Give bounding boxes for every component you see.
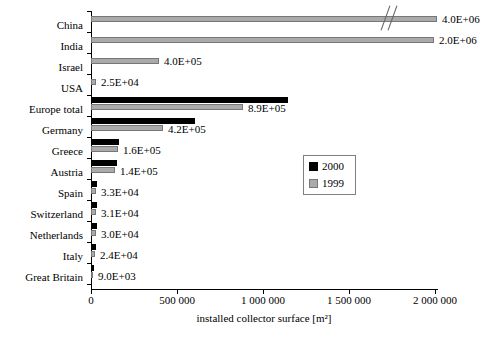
- y-label-netherlands: Netherlands: [0, 230, 83, 241]
- y-label-greece: Greece: [0, 146, 83, 157]
- bar-1999-austria: [91, 167, 115, 173]
- bar-1999-netherlands: [91, 230, 96, 236]
- y-label-usa: USA: [0, 83, 83, 94]
- bar-value-spain: 3.3E+04: [101, 187, 139, 198]
- y-label-great-britain: Great Britain: [0, 272, 83, 283]
- x-tick-label-2: 1 000 000: [241, 294, 285, 306]
- x-axis-title: installed collector surface [m²]: [0, 312, 498, 324]
- bar-1999-switzerland: [91, 209, 96, 215]
- legend-swatch-1999-icon: [309, 179, 318, 188]
- bar-2000-great-britain: [91, 265, 94, 271]
- y-label-china: China: [0, 20, 83, 31]
- legend-label-2000: 2000: [322, 161, 344, 172]
- bar-value-india: 2.0E+06: [439, 35, 477, 46]
- x-tick-label-3: 1 500 000: [327, 294, 371, 306]
- legend-swatch-2000-icon: [309, 162, 318, 171]
- y-label-germany: Germany: [0, 125, 83, 136]
- bar-1999-europe-total: [91, 104, 243, 110]
- bar-value-italy: 2.4E+04: [100, 250, 138, 261]
- bar-value-austria: 1.4E+05: [120, 166, 158, 177]
- y-label-india: India: [0, 41, 83, 52]
- bar-value-germany: 4.2E+05: [168, 124, 206, 135]
- bar-1999-india: [91, 37, 434, 43]
- bar-1999-israel: [91, 58, 159, 64]
- bar-value-greece: 1.6E+05: [123, 145, 161, 156]
- y-label-austria: Austria: [0, 167, 83, 178]
- bar-2000-italy: [91, 244, 96, 250]
- bar-1999-great-britain: [91, 272, 93, 278]
- legend-item-2000: 2000: [309, 160, 344, 172]
- x-tick-label-4: 2 000 000: [413, 294, 457, 306]
- bar-2000-switzerland: [91, 202, 97, 208]
- x-axis-line: [91, 289, 438, 290]
- bar-value-usa: 2.5E+04: [101, 77, 139, 88]
- bar-2000-spain: [91, 181, 97, 187]
- bar-1999-spain: [91, 188, 96, 194]
- bar-2000-greece: [91, 139, 119, 145]
- bar-value-netherlands: 3.0E+04: [101, 229, 139, 240]
- chart-legend: 2000 1999: [303, 155, 356, 195]
- bar-value-europe-total: 8.9E+05: [248, 103, 286, 114]
- bar-chart: China India Israel USA Europe total Germ…: [0, 0, 498, 339]
- y-label-israel: Israel: [0, 62, 83, 73]
- bar-value-israel: 4.0E+05: [164, 56, 202, 67]
- bar-1999-italy: [91, 251, 95, 257]
- legend-item-1999: 1999: [309, 177, 344, 189]
- y-label-italy: Italy: [0, 251, 83, 262]
- bar-value-china: 4.0E+06: [442, 14, 480, 25]
- bar-value-great-britain: 9.0E+03: [98, 271, 136, 282]
- axis-break-icon: [381, 5, 399, 31]
- bar-value-switzerland: 3.1E+04: [101, 208, 139, 219]
- plot-area: 4.0E+06 2.0E+06 4.0E+05 2.5E+04 8.9E+05 …: [91, 11, 438, 288]
- y-label-switzerland: Switzerland: [0, 209, 83, 220]
- bar-2000-austria: [91, 160, 117, 166]
- x-tick-label-1: 500 000: [159, 294, 195, 306]
- x-axis-title-text: installed collector surface [m²]: [197, 312, 332, 324]
- legend-label-1999: 1999: [322, 178, 344, 189]
- bar-1999-greece: [91, 146, 118, 152]
- x-tick-label-0: 0: [88, 294, 94, 306]
- y-label-europe-total: Europe total: [0, 104, 83, 115]
- y-axis-category-labels: China India Israel USA Europe total Germ…: [0, 11, 87, 288]
- bar-1999-usa: [91, 79, 96, 85]
- bar-2000-netherlands: [91, 223, 97, 229]
- y-label-spain: Spain: [0, 188, 83, 199]
- bar-1999-germany: [91, 125, 163, 131]
